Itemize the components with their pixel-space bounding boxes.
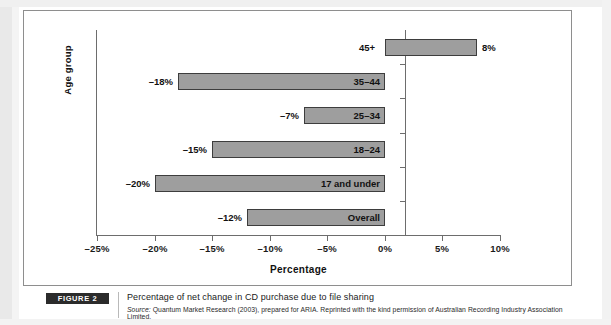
caption-divider — [118, 292, 119, 318]
x-tick-label: –15% — [186, 243, 238, 254]
bar-category-label: 18–24 — [212, 141, 385, 158]
x-axis-line — [96, 235, 501, 236]
x-tick-label: 5% — [416, 243, 468, 254]
x-tick-label: 10% — [474, 243, 526, 254]
bar-value-label: –12% — [213, 209, 242, 226]
bar-value-label: –20% — [121, 175, 150, 192]
x-tick — [385, 236, 386, 241]
bar-category-label: Overall — [247, 209, 385, 226]
caption-source-text: Quantum Market Research (2003), prepared… — [127, 306, 563, 320]
x-tick — [212, 236, 213, 241]
y-tick — [400, 167, 405, 168]
caption-source-prefix: Source: — [127, 306, 151, 313]
page-edge-left — [0, 0, 12, 325]
figure-caption: FIGURE 2 Percentage of net change in CD … — [46, 293, 586, 321]
page-edge-left-inner — [12, 0, 19, 325]
x-tick — [442, 236, 443, 241]
x-tick — [155, 236, 156, 241]
figure-number-badge: FIGURE 2 — [46, 293, 109, 304]
y-tick — [400, 64, 405, 65]
figure-page: Age group Percentage –25%–20%–15%–10%–5%… — [0, 0, 611, 325]
x-tick — [97, 236, 98, 241]
x-tick-label: –20% — [129, 243, 181, 254]
y-tick — [400, 133, 405, 134]
bar-value-label: 8% — [482, 39, 496, 56]
bar-value-label: –15% — [178, 141, 207, 158]
y-tick — [400, 98, 405, 99]
bar-category-label: 17 and under — [155, 175, 385, 192]
page-edge-right — [602, 0, 611, 325]
bar-category-label: 45+ — [265, 39, 380, 56]
page-edge-top — [0, 0, 611, 7]
x-tick — [270, 236, 271, 241]
y-axis-title: Age group — [62, 35, 73, 105]
zero-axis-line — [405, 30, 406, 236]
x-tick-label: –5% — [301, 243, 353, 254]
y-tick — [400, 201, 405, 202]
x-tick-label: –25% — [71, 243, 123, 254]
x-tick-label: –10% — [244, 243, 296, 254]
bar-value-label: –7% — [270, 107, 299, 124]
bar-category-label: 35–44 — [178, 73, 385, 90]
bar-value-label: –18% — [144, 73, 173, 90]
bar-category-label: 25–34 — [304, 107, 385, 124]
caption-source: Source: Quantum Market Research (2003), … — [127, 306, 586, 320]
y-axis-line — [96, 30, 97, 236]
caption-title: Percentage of net change in CD purchase … — [127, 292, 374, 302]
x-tick-label: 0% — [359, 243, 411, 254]
x-axis-title: Percentage — [97, 264, 500, 275]
x-tick — [327, 236, 328, 241]
bar — [385, 39, 477, 56]
x-tick — [500, 236, 501, 241]
